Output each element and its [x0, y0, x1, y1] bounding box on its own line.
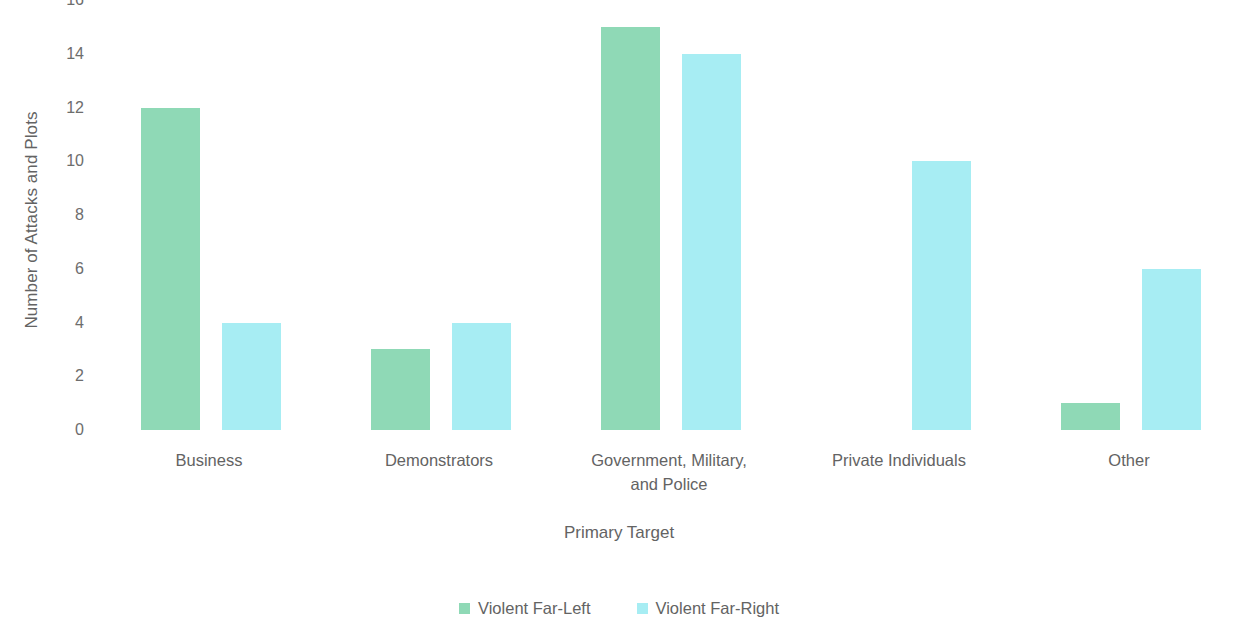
x-axis-category-labels: BusinessDemonstratorsGovernment, Militar… — [94, 448, 1238, 508]
bar[interactable] — [452, 323, 511, 431]
bar-chart: Number of Attacks and Plots 161412108642… — [0, 0, 1238, 628]
category-label-line: and Police — [554, 472, 784, 496]
bar-group — [324, 0, 554, 430]
bar[interactable] — [682, 54, 741, 430]
legend-item[interactable]: Violent Far-Right — [637, 600, 780, 617]
x-axis-category-label: Business — [94, 448, 324, 472]
y-axis-tick-label: 14 — [24, 46, 84, 62]
legend-swatch-icon — [637, 603, 648, 614]
category-label-line: Government, Military, — [554, 448, 784, 472]
bar-group — [94, 0, 324, 430]
bar[interactable] — [222, 323, 281, 431]
x-axis-category-label: Private Individuals — [784, 448, 1014, 472]
legend-label: Violent Far-Right — [656, 600, 780, 617]
y-axis-tick-label: 6 — [24, 261, 84, 277]
bar[interactable] — [601, 27, 660, 430]
bar[interactable] — [1061, 403, 1120, 430]
category-label-line: Business — [94, 448, 324, 472]
bar-group — [784, 0, 1014, 430]
y-axis-tick-label: 12 — [24, 100, 84, 116]
category-label-line: Private Individuals — [784, 448, 1014, 472]
y-axis-tick-label: 0 — [24, 422, 84, 438]
x-axis-category-label: Demonstrators — [324, 448, 554, 472]
y-axis-tick-label: 16 — [24, 0, 84, 8]
y-axis-tick-label: 4 — [24, 315, 84, 331]
x-axis-title: Primary Target — [0, 523, 1238, 543]
legend-swatch-icon — [459, 603, 470, 614]
bar[interactable] — [912, 161, 971, 430]
bar[interactable] — [1142, 269, 1201, 430]
bar[interactable] — [371, 349, 430, 430]
y-axis-tick-label: 2 — [24, 368, 84, 384]
category-label-line: Other — [1014, 448, 1238, 472]
legend-label: Violent Far-Left — [478, 600, 591, 617]
chart-legend: Violent Far-LeftViolent Far-Right — [0, 600, 1238, 617]
x-axis-category-label: Other — [1014, 448, 1238, 472]
y-axis-tick-label: 8 — [24, 207, 84, 223]
bar-group — [554, 0, 784, 430]
category-label-line: Demonstrators — [324, 448, 554, 472]
y-axis-tick-label: 10 — [24, 153, 84, 169]
legend-item[interactable]: Violent Far-Left — [459, 600, 591, 617]
bar[interactable] — [141, 108, 200, 431]
x-axis-category-label: Government, Military,and Police — [554, 448, 784, 496]
y-axis-tick-labels: 1614121086420 — [24, 0, 84, 440]
plot-area — [94, 0, 1238, 430]
bar-group — [1014, 0, 1238, 430]
